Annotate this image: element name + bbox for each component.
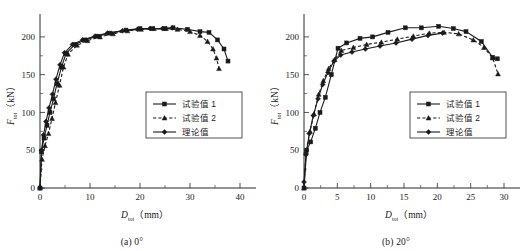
legend-label-2: 试验值 2 bbox=[446, 113, 480, 123]
y-tick-label: 50 bbox=[290, 145, 300, 155]
data-point-marker bbox=[226, 59, 230, 63]
y-tick-label: 200 bbox=[286, 32, 300, 42]
data-point-marker bbox=[50, 116, 55, 120]
y-axis-title: Ftot（kN） bbox=[5, 81, 18, 126]
data-point-marker bbox=[437, 24, 441, 28]
data-point-marker bbox=[363, 46, 368, 51]
data-point-marker bbox=[403, 26, 407, 30]
chart-b-legend: 试验值 1试验值 2理论值 bbox=[410, 92, 506, 138]
data-point-marker bbox=[345, 41, 349, 45]
data-point-marker bbox=[309, 140, 313, 144]
data-point-marker bbox=[313, 126, 317, 130]
data-point-marker bbox=[318, 110, 322, 114]
data-point-marker bbox=[371, 35, 375, 39]
figure-container: 010203040050100150200 试验值 1试验值 2理论值 Dtot… bbox=[0, 0, 528, 251]
x-tick-label: 0 bbox=[38, 192, 43, 202]
chart-a-caption: (a) 0° bbox=[0, 237, 264, 247]
chart-panel-b: 051015202530050100150200 试验值 1试验值 2理论值 D… bbox=[264, 0, 528, 251]
legend-label-1: 试验值 1 bbox=[446, 99, 480, 109]
x-tick-label: 0 bbox=[302, 192, 307, 202]
data-point-marker bbox=[358, 36, 362, 40]
chart-b-caption: (b) 20° bbox=[264, 237, 528, 247]
data-point-marker bbox=[323, 95, 327, 99]
data-point-marker bbox=[496, 72, 501, 76]
x-tick-label: 15 bbox=[400, 192, 410, 202]
x-tick-label: 5 bbox=[335, 192, 340, 202]
data-point-marker bbox=[163, 102, 167, 106]
x-tick-label: 10 bbox=[366, 192, 376, 202]
data-point-marker bbox=[419, 26, 423, 30]
data-point-marker bbox=[302, 179, 307, 184]
x-tick-label: 20 bbox=[433, 192, 443, 202]
chart-b-svg: 051015202530050100150200 试验值 1试验值 2理论值 D… bbox=[264, 0, 528, 251]
x-tick-label: 10 bbox=[86, 192, 96, 202]
legend-label-3: 理论值 bbox=[446, 127, 473, 137]
data-point-marker bbox=[214, 56, 219, 60]
y-tick-label: 0 bbox=[31, 183, 36, 193]
data-point-marker bbox=[222, 47, 226, 51]
chart-a-svg: 010203040050100150200 试验值 1试验值 2理论值 Dtot… bbox=[0, 0, 264, 251]
data-point-marker bbox=[464, 30, 468, 34]
x-tick-label: 25 bbox=[466, 192, 476, 202]
legend-label-2: 试验值 2 bbox=[182, 113, 216, 123]
x-axis-title: Dtot（mm） bbox=[384, 209, 433, 222]
data-point-marker bbox=[316, 96, 321, 101]
x-tick-label: 40 bbox=[236, 192, 246, 202]
x-tick-label: 30 bbox=[186, 192, 196, 202]
data-point-marker bbox=[495, 57, 499, 61]
data-point-marker bbox=[427, 102, 431, 106]
legend-label-1: 试验值 1 bbox=[182, 99, 216, 109]
data-point-marker bbox=[479, 39, 483, 43]
chart-a-legend: 试验值 1试验值 2理论值 bbox=[146, 92, 242, 138]
legend-label-3: 理论值 bbox=[182, 127, 209, 137]
y-tick-label: 50 bbox=[26, 145, 36, 155]
y-axis-title: Ftot（kN） bbox=[269, 81, 282, 126]
data-point-marker bbox=[207, 30, 211, 34]
data-point-marker bbox=[451, 27, 455, 31]
y-tick-label: 200 bbox=[22, 32, 36, 42]
x-tick-label: 30 bbox=[500, 192, 510, 202]
y-tick-label: 150 bbox=[286, 70, 300, 80]
data-point-marker bbox=[46, 131, 51, 135]
data-point-marker bbox=[216, 38, 220, 42]
y-tick-label: 150 bbox=[22, 70, 36, 80]
y-tick-label: 100 bbox=[22, 108, 36, 118]
y-tick-label: 0 bbox=[295, 183, 300, 193]
data-point-marker bbox=[364, 42, 369, 46]
data-point-marker bbox=[336, 46, 340, 50]
x-axis-title: Dtot（mm） bbox=[120, 209, 169, 222]
y-tick-label: 100 bbox=[286, 108, 300, 118]
data-point-marker bbox=[386, 30, 390, 34]
chart-panel-a: 010203040050100150200 试验值 1试验值 2理论值 Dtot… bbox=[0, 0, 264, 251]
x-tick-label: 20 bbox=[136, 192, 146, 202]
data-point-marker bbox=[350, 50, 355, 55]
data-point-marker bbox=[217, 66, 222, 70]
